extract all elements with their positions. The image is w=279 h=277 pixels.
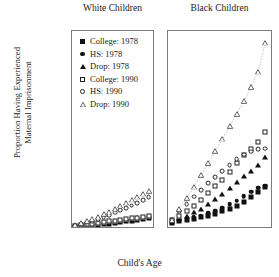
marker-filled-square <box>234 203 239 208</box>
marker-filled-triangle <box>184 213 190 218</box>
legend-marker <box>78 85 87 98</box>
marker-open-triangle <box>241 99 247 104</box>
x-axis-label: Child's Age <box>0 258 279 268</box>
marker-open-circle <box>256 147 261 152</box>
legend-label: Drop: 1990 <box>90 98 129 111</box>
marker-open-circle <box>118 208 123 213</box>
marker-open-triangle <box>169 217 175 222</box>
marker-open-circle <box>241 152 246 157</box>
marker-open-triangle <box>198 173 204 178</box>
legend-label: College: 1990 <box>90 73 138 86</box>
marker-filled-triangle <box>212 197 218 202</box>
marker-open-square <box>256 139 261 144</box>
marker-open-triangle <box>248 85 254 90</box>
marker-filled-triangle <box>219 191 225 196</box>
marker-filled-square <box>248 195 253 200</box>
marker-open-circle <box>129 203 134 208</box>
marker-filled-circle <box>220 205 225 210</box>
marker-filled-circle <box>227 202 232 207</box>
marker-filled-triangle <box>205 202 211 207</box>
marker-open-circle <box>234 157 239 162</box>
marker-open-triangle <box>212 148 218 153</box>
marker-open-circle <box>124 205 129 210</box>
legend-item: HS: 1990 <box>78 85 138 98</box>
marker-filled-triangle <box>198 206 204 211</box>
marker-open-square <box>206 190 211 195</box>
legend-marker <box>78 48 87 61</box>
marker-open-circle <box>140 198 145 203</box>
marker-open-square <box>220 177 225 182</box>
legend-item: Drop: 1978 <box>78 60 138 73</box>
marker-open-circle <box>198 188 203 193</box>
figure: Proportion Having Experienced Maternal I… <box>0 0 279 277</box>
marker-filled-triangle <box>241 173 247 178</box>
legend-marker <box>78 98 87 111</box>
marker-open-square <box>118 217 123 222</box>
marker-filled-circle <box>191 215 196 220</box>
panel-white-children: 00.010.020.030.040.052468101214 College:… <box>71 30 154 228</box>
marker-filled-triangle <box>80 64 86 69</box>
marker-open-square <box>177 213 182 218</box>
marker-open-square <box>129 216 134 221</box>
marker-filled-circle <box>206 211 211 216</box>
marker-filled-circle <box>249 190 254 195</box>
marker-open-circle <box>146 195 151 200</box>
marker-open-circle <box>213 174 218 179</box>
marker-open-triangle <box>255 69 261 74</box>
legend-marker <box>78 60 87 73</box>
marker-open-circle <box>80 89 85 94</box>
marker-open-square <box>112 218 117 223</box>
marker-open-square <box>80 77 85 82</box>
marker-open-square <box>198 197 203 202</box>
marker-open-circle <box>206 181 211 186</box>
legend-item: HS: 1978 <box>78 48 138 61</box>
legend: College: 1978HS: 1978Drop: 1978College: … <box>78 35 138 111</box>
panel-title-white: White Children <box>71 3 154 13</box>
marker-open-square <box>213 184 218 189</box>
marker-filled-circle <box>263 183 268 188</box>
marker-filled-circle <box>242 194 247 199</box>
marker-filled-circle <box>213 208 218 213</box>
panel-black-children: 2468101214 <box>167 30 272 228</box>
marker-filled-circle <box>199 213 204 218</box>
marker-open-triangle <box>219 136 225 141</box>
marker-filled-circle <box>256 186 261 191</box>
marker-open-square <box>227 169 232 174</box>
marker-open-square <box>135 215 140 220</box>
marker-open-circle <box>191 194 196 199</box>
marker-filled-triangle <box>255 162 261 167</box>
marker-filled-circle <box>80 52 85 57</box>
marker-open-circle <box>249 149 254 154</box>
marker-filled-triangle <box>191 210 197 215</box>
marker-filled-square <box>256 190 261 195</box>
marker-open-circle <box>135 201 140 206</box>
marker-open-triangle <box>184 195 190 200</box>
legend-label: HS: 1978 <box>90 48 122 61</box>
marker-filled-square <box>241 199 246 204</box>
marker-open-triangle <box>234 112 240 117</box>
marker-open-triangle <box>191 184 197 189</box>
y-axis-label-line1: Proportion Having Experienced <box>12 15 23 191</box>
legend-marker <box>78 35 87 48</box>
legend-label: Drop: 1978 <box>90 60 129 73</box>
legend-item: Drop: 1990 <box>78 98 138 111</box>
marker-open-square <box>124 217 129 222</box>
marker-open-triangle <box>227 124 233 129</box>
legend-label: HS: 1990 <box>90 85 122 98</box>
marker-open-triangle <box>176 207 182 212</box>
marker-open-circle <box>263 146 268 151</box>
legend-item: College: 1978 <box>78 35 138 48</box>
marker-filled-square <box>80 39 85 44</box>
marker-open-circle <box>184 202 189 207</box>
y-axis-label: Proportion Having Experienced Maternal I… <box>12 15 33 191</box>
marker-filled-triangle <box>234 179 240 184</box>
marker-open-square <box>140 215 145 220</box>
marker-open-square <box>263 129 268 134</box>
marker-filled-circle <box>234 198 239 203</box>
marker-open-triangle <box>205 161 211 166</box>
plot-area-black: 2468101214 <box>168 31 271 227</box>
y-axis-label-line2: Maternal Imprisonment <box>22 15 33 191</box>
marker-filled-triangle <box>262 154 268 159</box>
marker-open-square <box>234 161 239 166</box>
marker-open-square <box>107 219 112 224</box>
